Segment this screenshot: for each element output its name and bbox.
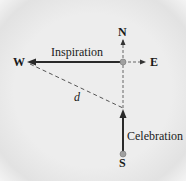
celebration-arrowhead-icon bbox=[120, 109, 127, 118]
resultant-d-label: d bbox=[74, 91, 80, 103]
inspiration-label: Inspiration bbox=[51, 46, 103, 58]
west-label: W bbox=[13, 56, 25, 68]
south-label: S bbox=[119, 157, 126, 169]
north-label: N bbox=[118, 26, 127, 38]
vector-diagram: N E W S Inspiration Celebration d bbox=[0, 0, 186, 181]
east-label: E bbox=[150, 56, 158, 68]
origin-point-icon bbox=[120, 59, 126, 65]
celebration-label: Celebration bbox=[127, 130, 183, 142]
east-arrowhead-icon bbox=[140, 60, 146, 65]
north-arrowhead-icon bbox=[121, 39, 126, 45]
diagram-canvas bbox=[0, 0, 186, 181]
